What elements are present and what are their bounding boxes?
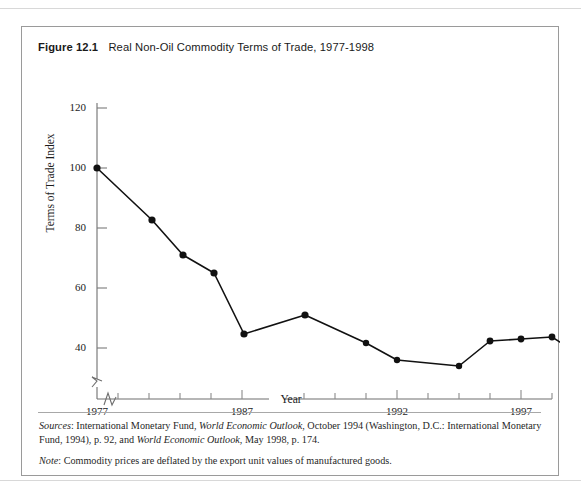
figure-container: Figure 12.1 Real Non-Oil Commodity Terms… <box>21 26 559 476</box>
data-point-1992 <box>394 357 400 363</box>
x-tick-label-1977: 1977 <box>77 405 117 417</box>
data-point-1982 <box>210 269 217 276</box>
sources-note: Sources: International Monetary Fund, Wo… <box>39 419 543 448</box>
y-tick-label-60: 60 <box>52 281 86 293</box>
page-rule-bottom <box>0 480 581 481</box>
sources-label: Sources <box>39 420 71 431</box>
explanatory-note: Note: Commodity prices are deflated by t… <box>39 454 543 468</box>
y-axis-break-mark <box>92 377 102 387</box>
y-tick-label-100: 100 <box>52 161 86 173</box>
data-point-1981 <box>179 251 186 258</box>
note-text: : Commodity prices are deflated by the e… <box>58 455 392 466</box>
data-point-1995 <box>518 336 525 343</box>
y-axis-label: Terms of Trade Index <box>44 93 56 273</box>
x-tick-label-1997: 1997 <box>501 405 541 417</box>
y-tick-label-80: 80 <box>52 221 86 233</box>
footer-divider <box>38 412 541 413</box>
sources-text-3: , May 1998, p. 174. <box>240 434 320 445</box>
y-tick-label-40: 40 <box>52 341 86 353</box>
data-point-1994 <box>487 338 494 345</box>
data-point-1979 <box>148 216 155 223</box>
data-marker-group <box>93 164 555 369</box>
chart-plot-area: 120 100 80 60 40 1977 1987 1992 1997 Ter… <box>22 27 560 417</box>
data-line <box>97 168 560 366</box>
data-point-1987 <box>240 330 247 337</box>
note-label: Note <box>39 455 58 466</box>
figure-footnotes: Sources: International Monetary Fund, Wo… <box>39 419 543 468</box>
x-axis-label: Year <box>22 393 560 405</box>
y-tick-label-120: 120 <box>52 101 86 113</box>
x-tick-label-1987: 1987 <box>222 405 262 417</box>
data-point-1996 <box>549 334 556 341</box>
x-tick-label-1992: 1992 <box>377 405 417 417</box>
data-point-1993 <box>456 363 462 369</box>
data-point-1991 <box>363 340 369 346</box>
sources-italic-1: World Economic Outlook <box>199 420 302 431</box>
data-point-1989 <box>301 311 308 318</box>
line-chart-svg <box>22 27 560 417</box>
data-point-1977 <box>93 164 100 171</box>
sources-italic-2: World Economic Outlook <box>137 434 240 445</box>
page-rule-top <box>0 8 581 9</box>
sources-text-1: : International Monetary Fund, <box>71 420 199 431</box>
